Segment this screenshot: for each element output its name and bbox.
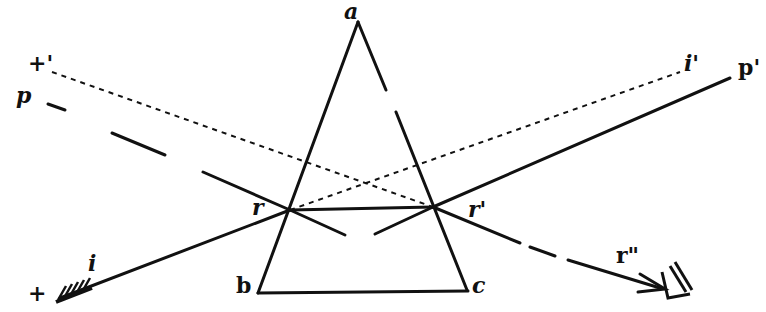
label-plus: + — [28, 282, 46, 304]
label-i-prime: i' — [684, 52, 699, 74]
label-plus-prime: +' — [28, 52, 53, 74]
label-r-prime: r' — [468, 198, 486, 220]
label-c: c — [472, 274, 485, 296]
prism — [258, 22, 468, 293]
prism-left-edge — [258, 22, 358, 293]
prism-diagram: a b c i i' +' p p' r r' r" + — [0, 0, 766, 312]
label-p-prime: p' — [738, 56, 760, 78]
line-r-to-p-prime — [290, 78, 730, 235]
label-i: i — [88, 252, 96, 274]
label-r: r — [252, 196, 264, 218]
label-apex-a: a — [344, 0, 358, 22]
arrowhead-icon — [662, 262, 692, 298]
internal-ray — [290, 207, 433, 210]
prism-right-edge-upper — [358, 22, 386, 90]
label-p: p — [16, 84, 31, 106]
label-r-double-prime: r" — [616, 244, 639, 266]
diagram-svg — [0, 0, 766, 312]
prism-base — [258, 291, 468, 293]
dotted-line-i-prime — [290, 72, 680, 210]
arrow-feather-icon — [56, 278, 92, 302]
label-b: b — [236, 274, 251, 296]
dotted-line-plus-prime — [52, 72, 433, 207]
prism-right-edge-lower — [396, 112, 467, 290]
